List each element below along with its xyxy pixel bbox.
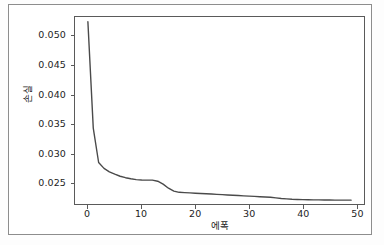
y-tick-label: 0.030: [9, 149, 66, 159]
y-tick-label: 0.040: [9, 90, 66, 100]
y-tick-label: 0.035: [9, 119, 66, 129]
y-tick-mark: [71, 154, 75, 155]
plot-area: [74, 16, 365, 205]
y-tick-label: 0.050: [9, 30, 66, 40]
y-tick-mark: [71, 124, 75, 125]
y-tick-label: 0.045: [9, 60, 66, 70]
y-axis-label: 손실: [23, 85, 33, 103]
y-tick-label: 0.025: [9, 178, 66, 188]
x-tick-label: 0: [84, 209, 90, 219]
x-axis-label: 에폭: [211, 221, 229, 231]
x-tick-label: 30: [243, 209, 255, 219]
loss-curve-svg: [75, 17, 364, 204]
figure-outer-frame: 0.0250.0300.0350.0400.0450.050 010203040…: [8, 4, 372, 235]
x-tick-label: 20: [189, 209, 201, 219]
y-tick-mark: [71, 183, 75, 184]
y-tick-mark: [71, 65, 75, 66]
x-tick-label: 10: [135, 209, 147, 219]
y-tick-mark: [71, 95, 75, 96]
loss-curve-line: [88, 22, 351, 200]
figure-root: 0.0250.0300.0350.0400.0450.050 010203040…: [0, 0, 384, 245]
x-tick-label: 50: [351, 209, 363, 219]
y-tick-mark: [71, 35, 75, 36]
x-tick-label: 40: [297, 209, 309, 219]
